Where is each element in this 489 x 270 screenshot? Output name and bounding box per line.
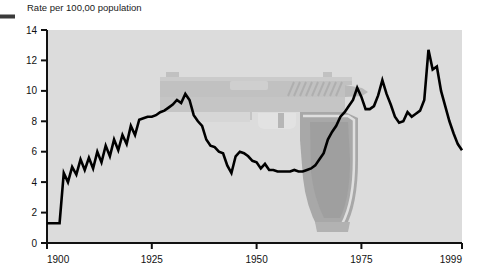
x-tick-label-1950: 1950	[245, 254, 268, 265]
y-tick-label-10: 10	[26, 85, 38, 96]
left-dash-marker	[0, 15, 15, 19]
gun-trigger-guard-inner	[258, 113, 296, 129]
y-tick-label-8: 8	[31, 116, 37, 127]
y-tick-label-6: 6	[31, 146, 37, 157]
gun-magazine-base	[315, 222, 350, 232]
x-tick-label-1975: 1975	[350, 254, 373, 265]
gun-dust-cover	[196, 112, 250, 122]
x-tick-label-1900: 1900	[47, 254, 70, 265]
plot-area-background	[47, 30, 462, 243]
y-tick-label-12: 12	[26, 55, 38, 66]
y-tick-label-2: 2	[31, 207, 37, 218]
gun-slide-highlight	[160, 77, 352, 81]
x-tick-label-1925: 1925	[141, 254, 164, 265]
y-tick-label-0: 0	[31, 238, 37, 249]
gun-ejection-port	[230, 81, 268, 90]
x-tick-label-1999: 1999	[440, 254, 463, 265]
chart-title: Rate per 100,00 population	[27, 2, 142, 13]
y-tick-label-14: 14	[26, 25, 38, 36]
gun-trigger	[278, 113, 284, 128]
y-tick-label-4: 4	[31, 177, 37, 188]
chart-figure: Rate per 100,00 population	[0, 0, 489, 270]
